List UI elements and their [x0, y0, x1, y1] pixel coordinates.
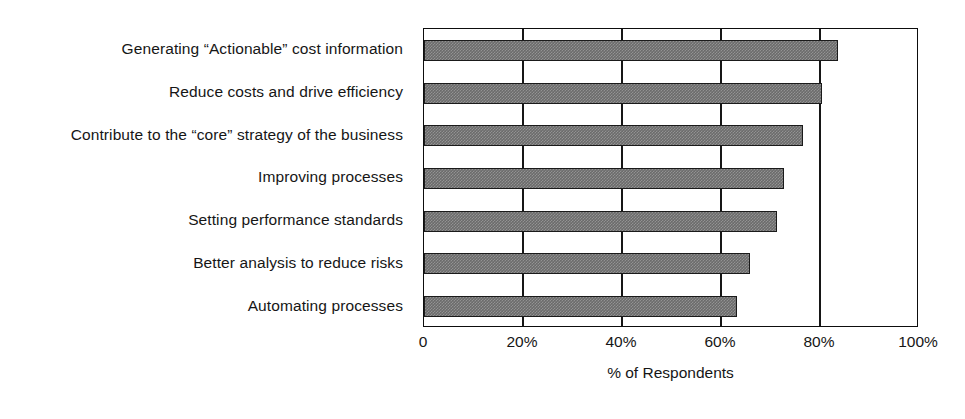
bar-row [424, 285, 917, 328]
plot-area [423, 28, 918, 327]
bar-chart: Generating “Actionable” cost information… [0, 0, 965, 419]
category-label-row: Better analysis to reduce risks [0, 242, 413, 285]
x-tick-label: 0 [419, 332, 428, 352]
x-axis-title: % of Respondents [423, 364, 918, 382]
category-axis-labels: Generating “Actionable” cost information… [0, 28, 413, 327]
bar [424, 125, 803, 146]
category-label: Better analysis to reduce risks [193, 254, 413, 272]
bar-row [424, 29, 917, 72]
x-tick-label: 20% [506, 332, 537, 352]
category-label: Automating processes [248, 297, 413, 315]
category-label: Reduce costs and drive efficiency [169, 83, 413, 101]
bar [424, 296, 737, 317]
category-label-row: Setting performance standards [0, 199, 413, 242]
bar [424, 253, 750, 274]
bar [424, 211, 777, 232]
x-tick-label: 100% [898, 332, 938, 352]
category-label-row: Reduce costs and drive efficiency [0, 71, 413, 114]
bar [424, 83, 822, 104]
category-label-row: Contribute to the “core” strategy of the… [0, 113, 413, 156]
category-label: Improving processes [258, 168, 413, 186]
bar-row [424, 114, 917, 157]
category-label: Setting performance standards [188, 211, 413, 229]
category-label: Generating “Actionable” cost information [122, 40, 413, 58]
x-axis-tick-labels: 020%40%60%80%100% [423, 332, 918, 356]
bar [424, 168, 784, 189]
bar-row [424, 157, 917, 200]
bar-row [424, 243, 917, 286]
category-label: Contribute to the “core” strategy of the… [71, 126, 413, 144]
x-tick-label: 80% [803, 332, 834, 352]
category-label-row: Generating “Actionable” cost information [0, 28, 413, 71]
category-label-row: Improving processes [0, 156, 413, 199]
x-tick-label: 40% [605, 332, 636, 352]
bar-row [424, 200, 917, 243]
bar [424, 40, 838, 61]
bar-row [424, 72, 917, 115]
category-label-row: Automating processes [0, 284, 413, 327]
x-tick-label: 60% [704, 332, 735, 352]
